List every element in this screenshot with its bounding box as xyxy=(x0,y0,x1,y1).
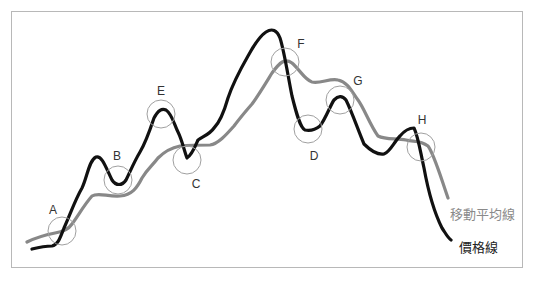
marker-label: B xyxy=(113,149,121,163)
marker-label: C xyxy=(192,177,201,191)
price-ma-diagram: A B E C F G D H 移動平均線 價格線 xyxy=(0,0,535,281)
marker-label: D xyxy=(310,149,319,163)
marker-label: E xyxy=(157,84,165,98)
marker-label: A xyxy=(49,203,57,217)
marker-label: G xyxy=(353,74,362,88)
marker-c: C xyxy=(173,146,201,191)
marker-label: F xyxy=(297,37,304,51)
moving-average-line xyxy=(27,61,448,242)
legend-price-line: 價格線 xyxy=(459,240,498,255)
marker-label: H xyxy=(418,113,427,127)
legend-moving-average: 移動平均線 xyxy=(450,207,515,222)
